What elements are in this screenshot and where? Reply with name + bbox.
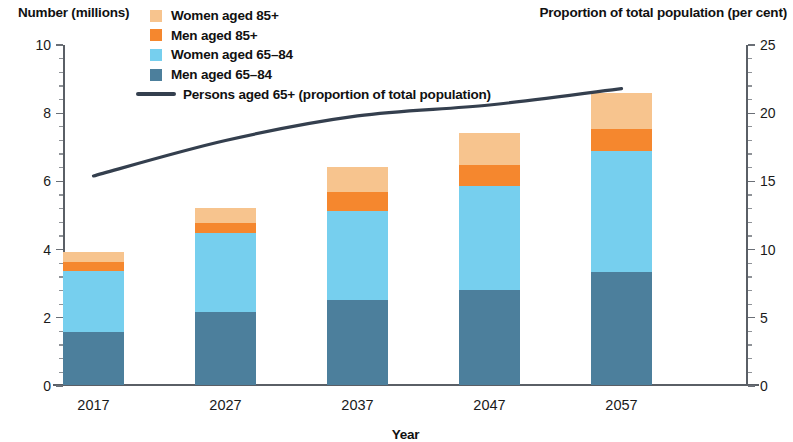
left-axis-tick-label: 8	[43, 106, 51, 120]
right-axis-minor-tick	[748, 194, 752, 195]
bar-segment[interactable]	[327, 211, 388, 300]
left-axis-tick-label: 2	[43, 311, 51, 325]
right-axis-tick	[748, 317, 755, 318]
left-axis-title: Number (millions)	[18, 5, 129, 20]
right-axis-minor-tick	[748, 222, 752, 223]
left-axis-tick	[56, 44, 63, 45]
right-axis-tick	[748, 44, 755, 45]
left-axis-tick	[56, 113, 63, 114]
right-axis-minor-tick	[748, 140, 752, 141]
x-axis-tick-label: 2057	[582, 397, 662, 413]
left-axis-tick	[56, 317, 63, 318]
bar-segment[interactable]	[63, 252, 124, 262]
left-axis-tick-label: 0	[43, 379, 51, 393]
right-axis-tick	[748, 181, 755, 182]
right-axis-minor-tick	[748, 290, 752, 291]
legend-swatch-women-85-plus	[150, 10, 162, 22]
right-axis-minor-tick	[748, 304, 752, 305]
right-axis-minor-tick	[748, 235, 752, 236]
legend-swatch-men-85-plus	[150, 29, 162, 41]
legend-item-label: Women aged 85+	[171, 8, 279, 23]
right-axis-tick	[748, 113, 755, 114]
bar-segment[interactable]	[195, 223, 256, 233]
right-axis-minor-tick	[748, 153, 752, 154]
bar-segment[interactable]	[327, 167, 388, 193]
bar-segment[interactable]	[63, 332, 124, 385]
bar-segment[interactable]	[459, 186, 520, 290]
right-axis-minor-tick	[748, 263, 752, 264]
right-axis-tick-label: 25	[760, 38, 776, 52]
x-axis-tick-label: 2017	[54, 397, 134, 413]
bar-segment[interactable]	[459, 133, 520, 165]
right-axis-minor-tick	[748, 126, 752, 127]
right-axis-line	[746, 45, 748, 386]
x-axis-tick-label: 2047	[450, 397, 530, 413]
right-axis-minor-tick	[748, 99, 752, 100]
plot-area: 0246810 0510152025 20172027203720472057 …	[63, 45, 748, 385]
right-axis-minor-tick	[748, 167, 752, 168]
right-axis-tick-label: 15	[760, 174, 776, 188]
right-axis-minor-tick	[748, 85, 752, 86]
bar-segment[interactable]	[591, 272, 652, 385]
left-axis-tick-label: 4	[43, 243, 51, 257]
right-axis-minor-tick	[748, 331, 752, 332]
right-axis-minor-tick	[748, 58, 752, 59]
bar-group[interactable]	[63, 44, 124, 385]
right-axis-tick	[748, 385, 755, 386]
x-axis-title: Year	[63, 427, 748, 442]
bar-group[interactable]	[591, 44, 652, 385]
bottom-axis-line	[53, 384, 759, 386]
bar-group[interactable]	[195, 44, 256, 385]
x-axis-tick-label: 2037	[318, 397, 398, 413]
right-axis-minor-tick	[748, 344, 752, 345]
bar-group[interactable]	[327, 44, 388, 385]
bar-segment[interactable]	[459, 165, 520, 185]
left-axis-tick	[56, 385, 63, 386]
left-axis-tick-label: 6	[43, 174, 51, 188]
right-axis-minor-tick	[748, 208, 752, 209]
right-axis-tick	[748, 249, 755, 250]
bar-segment[interactable]	[195, 312, 256, 385]
right-axis-tick-label: 20	[760, 106, 776, 120]
right-axis-minor-tick	[748, 72, 752, 73]
bar-segment[interactable]	[195, 233, 256, 311]
right-axis-minor-tick	[748, 276, 752, 277]
bar-group[interactable]	[459, 44, 520, 385]
bar-segment[interactable]	[591, 129, 652, 151]
bar-segment[interactable]	[591, 151, 652, 272]
bar-segment[interactable]	[195, 208, 256, 223]
right-axis-minor-tick	[748, 358, 752, 359]
right-axis-tick-label: 5	[760, 311, 768, 325]
bar-segment[interactable]	[63, 271, 124, 332]
bar-segment[interactable]	[327, 192, 388, 211]
legend-item: Women aged 85+	[150, 6, 610, 26]
left-axis-tick	[56, 249, 63, 250]
bar-segment[interactable]	[63, 262, 124, 271]
bar-segment[interactable]	[591, 93, 652, 129]
right-axis-tick-label: 10	[760, 243, 776, 257]
legend-item: Men aged 85+	[150, 26, 610, 46]
right-axis-minor-tick	[748, 372, 752, 373]
left-axis-tick	[56, 181, 63, 182]
legend-item-label: Men aged 85+	[171, 28, 258, 43]
bar-segment[interactable]	[327, 300, 388, 385]
bar-segment[interactable]	[459, 290, 520, 385]
left-axis-tick-label: 10	[35, 38, 51, 52]
right-axis-tick-label: 0	[760, 379, 768, 393]
x-axis-tick-label: 2027	[186, 397, 266, 413]
